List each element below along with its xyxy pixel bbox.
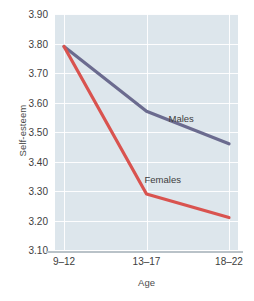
series-label-males: Males <box>169 113 194 124</box>
y-axis-tick-label: 3.40 <box>29 156 48 167</box>
y-axis-tick-label: 3.20 <box>29 215 48 226</box>
plot-area: MalesFemales <box>55 14 238 250</box>
x-axis-line <box>46 251 243 253</box>
x-axis-tick-label: 13–17 <box>133 256 161 267</box>
x-axis-tick-label: 18–22 <box>215 256 243 267</box>
series-line-males <box>64 46 229 143</box>
y-axis-tick-label: 3.90 <box>29 9 48 20</box>
series-lines <box>55 14 238 250</box>
x-axis-tick-label: 9–12 <box>53 256 75 267</box>
series-line-females <box>64 46 229 217</box>
y-axis-tick-label: 3.50 <box>29 127 48 138</box>
y-axis-tick-label: 3.30 <box>29 186 48 197</box>
y-axis-tick-labels: 3.103.203.303.403.503.603.703.803.90 <box>6 14 50 250</box>
x-axis-title: Age <box>55 277 238 288</box>
x-axis-tick-labels: 9–1213–1718–22 <box>55 256 238 272</box>
series-label-females: Females <box>145 174 181 185</box>
y-axis-tick-label: 3.80 <box>29 38 48 49</box>
y-axis-tick-label: 3.10 <box>29 245 48 256</box>
self-esteem-by-age-line-chart: Self-esteem 3.103.203.303.403.503.603.70… <box>0 0 254 301</box>
y-axis-tick-label: 3.70 <box>29 68 48 79</box>
y-axis-tick-label: 3.60 <box>29 97 48 108</box>
